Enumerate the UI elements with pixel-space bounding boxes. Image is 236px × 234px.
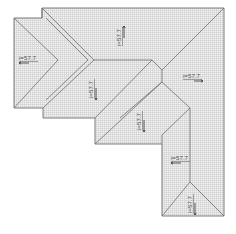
svg-text:i=57.7: i=57.7 — [186, 195, 193, 213]
svg-text:i=57.7: i=57.7 — [183, 72, 201, 79]
svg-text:i=57.7: i=57.7 — [115, 28, 122, 46]
roof-plan-diagram: i=57.7 i=57.7 i=57.7 i=57.7 i=57.7 i=57.… — [0, 0, 236, 234]
svg-text:i=57.7: i=57.7 — [135, 112, 142, 130]
svg-text:i=57.7: i=57.7 — [87, 80, 94, 98]
svg-text:i=57.7: i=57.7 — [171, 154, 189, 161]
svg-text:i=57.7: i=57.7 — [19, 54, 37, 61]
